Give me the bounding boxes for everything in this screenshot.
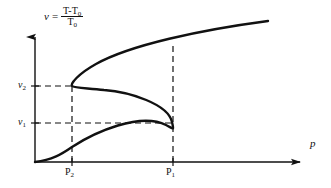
fraction-denominator: T0 <box>65 17 79 27</box>
y-axis-variable: v <box>44 11 49 22</box>
y-tick-label-v2: v2 <box>18 80 26 90</box>
y-axis-equals: = <box>52 11 58 22</box>
y-tick-label-v1: v1 <box>18 117 26 127</box>
figure-container: v = T-T0 T0 v2 v1 P2 P1 p <box>0 0 331 188</box>
y-tick-label-v2-sub: 2 <box>22 84 26 92</box>
x-tick-label-p2-sub: 2 <box>71 171 75 179</box>
x-axis-label: p <box>310 138 316 149</box>
denominator-subscript: 0 <box>73 21 77 29</box>
y-axis-label: v = T-T0 T0 <box>44 6 83 27</box>
x-tick-label-p1-sub: 1 <box>172 171 176 179</box>
s-curve <box>35 21 268 162</box>
x-tick-label-p1: P1 <box>166 167 175 177</box>
y-tick-label-v1-sub: 1 <box>22 121 26 129</box>
numerator-subscript: 0 <box>78 10 82 18</box>
y-axis-fraction: T-T0 T0 <box>61 6 83 27</box>
x-tick-label-p2: P2 <box>65 167 74 177</box>
fraction-numerator: T-T0 <box>61 6 83 16</box>
plot-svg <box>0 0 331 188</box>
